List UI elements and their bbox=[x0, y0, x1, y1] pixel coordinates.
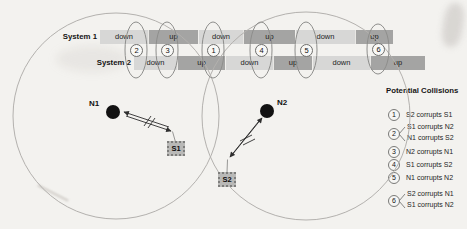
collision-marker-3: 3 bbox=[161, 44, 174, 57]
legend-item-2-text-1: S1 corrupts N2 bbox=[407, 123, 454, 130]
system1-timeline-bar: down up down up down up bbox=[100, 30, 393, 44]
legend-circle-4: 4 bbox=[388, 159, 400, 171]
node-n1-dot bbox=[106, 105, 120, 119]
link1-tick-2 bbox=[148, 118, 155, 128]
legend-item-3-text: N2 corrupts N1 bbox=[406, 148, 453, 155]
system2-label: System 2 bbox=[89, 58, 131, 67]
system2-timeline-bar: down up down up down up bbox=[134, 56, 425, 70]
legend-item-6-text-1: S2 corrupts N1 bbox=[407, 190, 454, 197]
collision-marker-1: 1 bbox=[207, 44, 220, 57]
collision-diagram: System 1 System 2 down up down up down u… bbox=[0, 0, 467, 229]
n2-to-s2-arrow bbox=[230, 121, 259, 157]
legend-circle-3: 3 bbox=[388, 146, 400, 158]
legend-circle-6: 6 bbox=[388, 195, 400, 207]
system2-segment-4: up bbox=[273, 56, 312, 70]
legend-item-2-text-2: N1 corrupts S2 bbox=[407, 134, 454, 141]
legend-circle-2: 2 bbox=[388, 128, 400, 140]
s1-to-n1-arrow bbox=[124, 112, 169, 127]
legend-circle-1: 1 bbox=[388, 109, 400, 121]
link2-tick-1 bbox=[240, 135, 252, 141]
system1-segment-3: down bbox=[198, 30, 243, 44]
collision-marker-6: 6 bbox=[372, 43, 385, 56]
station-s1-box: S1 bbox=[167, 141, 185, 156]
legend-circle-5: 5 bbox=[388, 172, 400, 184]
system2-segment-6: up bbox=[370, 56, 425, 70]
legend-item-5-text: N1 corrupts N2 bbox=[406, 174, 453, 181]
legend-title: Potential Collisions bbox=[386, 86, 458, 95]
system2-segment-5: down bbox=[312, 56, 370, 70]
system1-segment-1: down bbox=[100, 30, 148, 44]
system1-segment-5: down bbox=[295, 30, 355, 44]
scan-smudge-top-right bbox=[440, 2, 467, 49]
system2-segment-1: down bbox=[134, 56, 177, 70]
s2-to-n2-arrow bbox=[232, 118, 262, 155]
collision-marker-5: 5 bbox=[300, 44, 313, 57]
system1-segment-4: up bbox=[243, 30, 295, 44]
link2-tick-2 bbox=[243, 139, 255, 145]
node-n2-label: N2 bbox=[277, 98, 287, 107]
node-n1-label: N1 bbox=[89, 99, 99, 108]
system1-label: System 1 bbox=[55, 32, 97, 41]
node-n2-dot bbox=[260, 104, 274, 118]
system2-segment-2: up bbox=[177, 56, 225, 70]
legend-item-4-text: S1 corrupts S2 bbox=[406, 161, 452, 168]
s2-stem-line bbox=[227, 160, 228, 173]
collision-marker-2: 2 bbox=[130, 44, 143, 57]
scan-streak-bottom-left bbox=[37, 184, 68, 201]
collision-marker-4: 4 bbox=[255, 44, 268, 57]
system2-segment-3: down bbox=[225, 56, 273, 70]
legend-item-6-text-2: S1 corrupts N2 bbox=[407, 201, 454, 208]
legend-item-1-text: S2 corrupts S1 bbox=[406, 111, 452, 118]
system1-segment-6: up bbox=[355, 30, 393, 44]
link1-tick-1 bbox=[144, 116, 151, 126]
station-s2-box: S2 bbox=[218, 172, 236, 187]
system1-segment-2: up bbox=[148, 30, 198, 44]
n1-to-s1-arrow bbox=[126, 116, 171, 131]
